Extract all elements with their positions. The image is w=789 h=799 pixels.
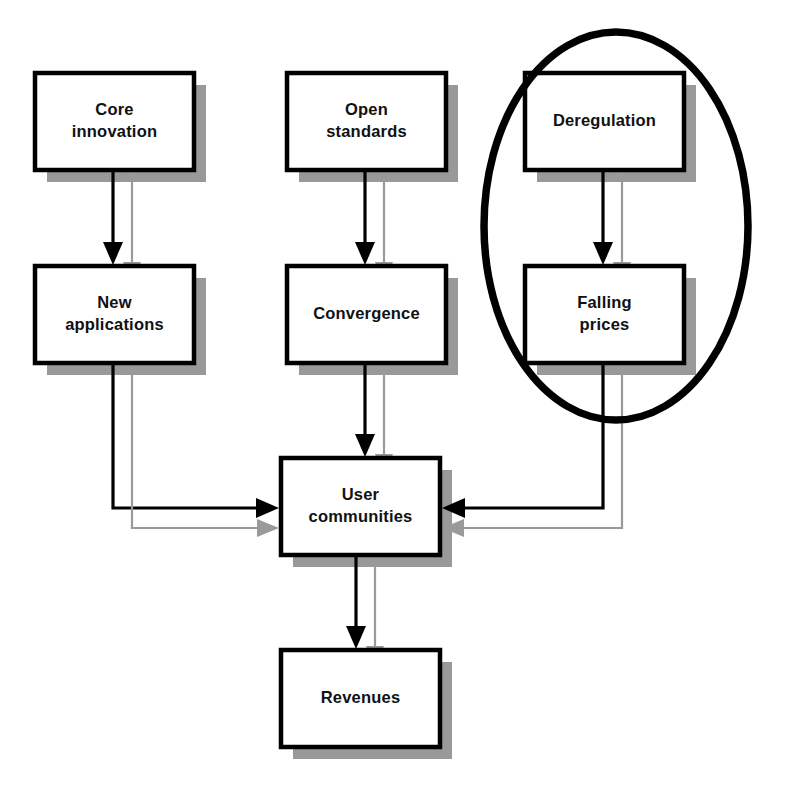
node-new-applications-label-line1: New bbox=[97, 293, 132, 311]
node-revenues[interactable]: Revenues bbox=[281, 650, 440, 747]
node-new-applications[interactable]: New applications bbox=[35, 266, 194, 363]
flow-diagram-canvas: Core innovation Open standards Deregulat… bbox=[0, 0, 789, 799]
node-open-standards[interactable]: Open standards bbox=[287, 73, 446, 170]
edge-new-applications-to-user-communities bbox=[113, 363, 279, 518]
node-new-applications-label-line2: applications bbox=[65, 315, 164, 333]
node-falling-prices-label-line2: prices bbox=[580, 315, 630, 333]
node-deregulation[interactable]: Deregulation bbox=[525, 73, 684, 170]
node-falling-prices-label-line1: Falling bbox=[577, 293, 632, 311]
edge-layer bbox=[103, 170, 631, 669]
node-open-standards-label-line2: standards bbox=[326, 122, 407, 140]
node-user-communities[interactable]: User communities bbox=[281, 458, 440, 555]
node-falling-prices[interactable]: Falling prices bbox=[525, 266, 684, 363]
node-user-communities-label-line1: User bbox=[342, 485, 380, 503]
edge-falling-prices-to-user-communities bbox=[442, 363, 603, 518]
node-revenues-label-line1: Revenues bbox=[321, 688, 401, 706]
edge-user-communities-to-revenues bbox=[346, 555, 366, 649]
edge-falling-prices-to-user-communities-secondary bbox=[442, 363, 622, 537]
node-deregulation-label-line1: Deregulation bbox=[553, 111, 656, 129]
edge-convergence-to-user-communities bbox=[355, 363, 375, 457]
flow-diagram-svg: Core innovation Open standards Deregulat… bbox=[0, 0, 789, 799]
node-convergence[interactable]: Convergence bbox=[287, 266, 446, 363]
edge-core-to-new-applications bbox=[103, 170, 123, 265]
node-open-standards-label-line1: Open bbox=[345, 100, 388, 118]
node-convergence-label-line1: Convergence bbox=[313, 304, 420, 322]
node-core-innovation-label-line2: innovation bbox=[72, 122, 157, 140]
edge-deregulation-to-falling-prices bbox=[593, 170, 613, 265]
edge-open-standards-to-convergence bbox=[355, 170, 375, 265]
node-user-communities-label-line2: communities bbox=[309, 507, 413, 525]
node-core-innovation[interactable]: Core innovation bbox=[35, 73, 194, 170]
node-core-innovation-label-line1: Core bbox=[95, 100, 133, 118]
